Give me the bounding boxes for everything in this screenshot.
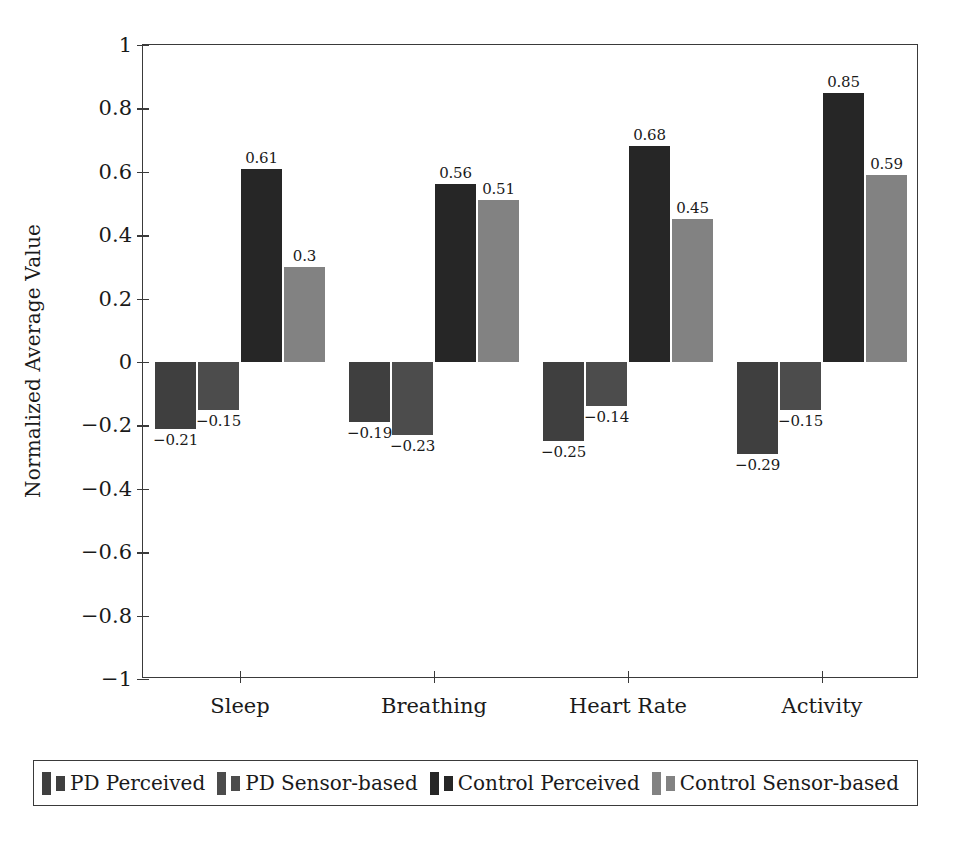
y-tick-mark (137, 362, 149, 363)
legend-swatch-icon (444, 776, 453, 791)
legend-label: PD Sensor-based (245, 771, 418, 795)
x-tick-mark (434, 671, 435, 683)
legend-swatch-icon (42, 772, 51, 795)
bar (241, 169, 282, 362)
legend-entry: Control Perceived (430, 761, 650, 805)
y-tick-label: 0.2 (99, 287, 132, 311)
legend-swatch-group (652, 772, 675, 795)
bar-value-label: 0.68 (633, 126, 666, 144)
y-tick-mark (137, 299, 149, 300)
bar (349, 362, 390, 422)
bar (155, 362, 196, 429)
bar-value-label: −0.29 (735, 456, 780, 474)
bar-value-label: −0.14 (584, 408, 629, 426)
legend-entry: PD Sensor-based (217, 761, 428, 805)
bar (435, 184, 476, 362)
legend-swatch-group (42, 772, 65, 795)
bar-value-label: 0.59 (870, 155, 903, 173)
legend-entry: Control Sensor-based (652, 761, 909, 805)
y-tick-label: 0 (119, 350, 132, 374)
bar (198, 362, 239, 410)
y-tick-label: 1 (119, 33, 132, 57)
legend-swatch-icon (666, 776, 675, 791)
bar-value-label: 0.3 (293, 247, 316, 265)
bar-value-label: 0.61 (245, 149, 278, 167)
x-tick-label: Sleep (210, 694, 269, 718)
bar-value-label: 0.56 (439, 164, 472, 182)
y-tick-mark (137, 616, 149, 617)
x-tick-mark (822, 671, 823, 683)
bar (284, 267, 325, 362)
bar (478, 200, 519, 362)
plot-area: 10.80.60.40.20−0.2−0.4−0.6−0.8−1 SleepBr… (142, 44, 918, 678)
legend-swatch-icon (217, 772, 226, 795)
y-tick-label: −0.8 (81, 604, 132, 628)
y-tick-label: 0.6 (99, 160, 132, 184)
bar-value-label: −0.15 (196, 412, 241, 430)
x-tick-mark (628, 671, 629, 683)
y-tick-mark (137, 489, 149, 490)
legend-swatch-icon (430, 772, 439, 795)
bar-chart-figure: Normalized Average Value 10.80.60.40.20−… (0, 0, 962, 844)
bar-value-label: −0.23 (390, 437, 435, 455)
x-tick-label: Activity (782, 694, 863, 718)
y-tick-mark (137, 425, 149, 426)
y-tick-mark (137, 108, 149, 109)
x-tick-label: Breathing (381, 694, 487, 718)
bar (672, 219, 713, 362)
y-tick-label: −0.6 (81, 540, 132, 564)
y-tick-mark (137, 172, 149, 173)
plot-inner: 10.80.60.40.20−0.2−0.4−0.6−0.8−1 SleepBr… (143, 45, 917, 677)
y-tick-label: −0.2 (81, 413, 132, 437)
y-axis-title: Normalized Average Value (18, 44, 48, 678)
bar-value-label: 0.85 (827, 73, 860, 91)
y-tick-mark (137, 45, 149, 46)
y-axis-title-text: Normalized Average Value (21, 224, 45, 498)
bar (543, 362, 584, 441)
bar-value-label: 0.51 (482, 180, 515, 198)
bar (586, 362, 627, 406)
bar (737, 362, 778, 454)
chart-legend: PD PerceivedPD Sensor-basedControl Perce… (33, 760, 918, 806)
legend-swatch-icon (652, 772, 661, 795)
bar-value-label: −0.21 (153, 431, 198, 449)
y-tick-label: 0.4 (99, 223, 132, 247)
legend-swatch-icon (231, 776, 240, 791)
y-tick-mark (137, 679, 149, 680)
legend-label: PD Perceived (70, 771, 205, 795)
legend-label: Control Perceived (458, 771, 640, 795)
y-tick-label: 0.8 (99, 96, 132, 120)
legend-swatch-group (430, 772, 453, 795)
bar-value-label: 0.45 (676, 199, 709, 217)
bar (866, 175, 907, 362)
legend-swatch-group (217, 772, 240, 795)
bar (629, 146, 670, 362)
legend-entry: PD Perceived (42, 761, 215, 805)
y-tick-mark (137, 552, 149, 553)
bar-value-label: −0.15 (778, 412, 823, 430)
legend-swatch-icon (56, 776, 65, 791)
bar-value-label: −0.25 (541, 443, 586, 461)
x-tick-mark (240, 671, 241, 683)
bar (823, 93, 864, 362)
bar-value-label: −0.19 (347, 424, 392, 442)
y-tick-mark (137, 235, 149, 236)
legend-label: Control Sensor-based (680, 771, 899, 795)
y-tick-label: −0.4 (81, 477, 132, 501)
x-tick-label: Heart Rate (569, 694, 687, 718)
bar (780, 362, 821, 410)
y-tick-label: −1 (101, 667, 132, 691)
bar (392, 362, 433, 435)
